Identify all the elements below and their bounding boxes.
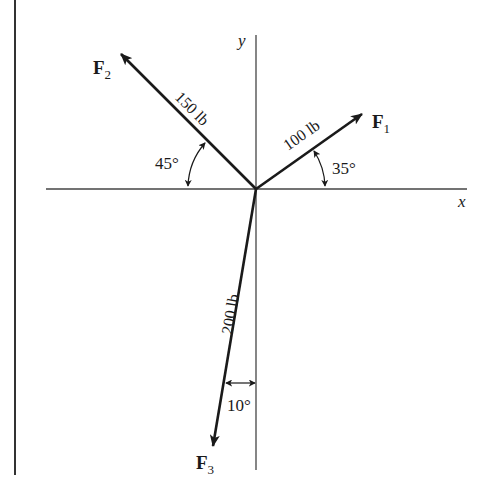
f2-label: F2: [93, 57, 111, 82]
f1-angle-arc: [314, 151, 325, 186]
f2-angle: 45°: [155, 154, 179, 173]
f2-arrow: [121, 54, 256, 189]
x-axis-label: x: [457, 192, 466, 211]
force-f1: F1 100 lb 35°: [256, 111, 390, 189]
f3-magnitude: 200 lb: [218, 293, 242, 336]
f1-angle: 35°: [332, 159, 356, 178]
force-f2: F2 150 lb 45°: [93, 54, 256, 189]
f1-magnitude: 100 lb: [280, 116, 323, 153]
f2-angle-arc: [188, 143, 205, 186]
y-axis-label: y: [236, 31, 246, 50]
force-f3: F3 200 lb 10°: [196, 189, 256, 477]
f3-angle: 10°: [227, 396, 251, 415]
f2-magnitude: 150 lb: [172, 88, 213, 129]
f1-label: F1: [372, 111, 390, 136]
f3-label: F3: [196, 452, 214, 477]
force-diagram: x y F1 100 lb 35° F2 150 lb 45° F3 200 l…: [0, 0, 489, 495]
